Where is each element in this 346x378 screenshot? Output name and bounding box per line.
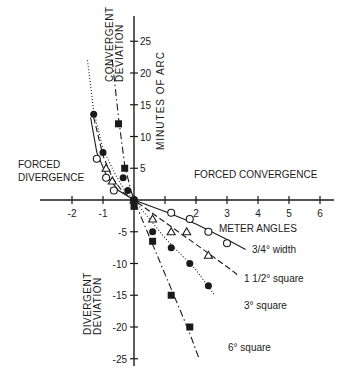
- data-point: [186, 260, 193, 267]
- data-point: [120, 174, 127, 181]
- divergent-deviation-label-2: DEVIATION: [92, 277, 103, 335]
- forced-convergence-label: FORCED CONVERGENCE: [194, 169, 318, 180]
- y-tick-label: 10: [140, 132, 152, 143]
- data-point: [168, 209, 175, 216]
- deviation-chart: -2-123456 252015105-5-10-15-20-25 CONVER…: [0, 0, 346, 378]
- x-tick-label: -2: [68, 208, 77, 219]
- series-line: [94, 118, 240, 277]
- y-tick-label: -25: [113, 354, 128, 365]
- data-point: [186, 216, 193, 223]
- data-point: [149, 238, 156, 245]
- legend-3-4-width: 3/4° width: [252, 244, 296, 255]
- data-point: [168, 292, 175, 299]
- legend-3-square: 3° square: [244, 300, 287, 311]
- legend-6-square: 6° square: [228, 342, 271, 353]
- data-point: [100, 149, 107, 156]
- data-point: [168, 244, 175, 251]
- y-tick-label: 25: [140, 36, 152, 47]
- meter-angles-label: METER ANGLES: [219, 223, 297, 234]
- data-point: [149, 228, 156, 235]
- x-tick-label: 3: [224, 208, 230, 219]
- y-tick-label: -10: [113, 259, 128, 270]
- series-curves: [88, 60, 246, 359]
- x-tick-label: -1: [99, 208, 108, 219]
- data-point: [183, 228, 191, 235]
- data-point: [103, 174, 110, 181]
- data-point: [90, 111, 97, 118]
- x-tick-label: 4: [255, 208, 261, 219]
- data-point: [121, 165, 128, 172]
- data-point: [205, 282, 212, 289]
- y-tick-label: 15: [140, 100, 152, 111]
- forced-divergence-label: FORCED: [18, 159, 60, 170]
- y-tick-label: 20: [140, 68, 152, 79]
- y-tick-label: -20: [113, 322, 128, 333]
- data-point: [186, 324, 193, 331]
- x-tick-label: 2: [193, 208, 199, 219]
- data-point: [93, 155, 100, 162]
- data-point: [110, 187, 117, 194]
- data-point: [205, 228, 212, 235]
- data-point: [124, 187, 131, 194]
- x-tick-label: 5: [286, 208, 292, 219]
- legend-1-5-square: 1 1/2° square: [244, 273, 304, 284]
- y-tick-label: -15: [113, 290, 128, 301]
- y-tick-label: 5: [140, 163, 146, 174]
- y-tick-label: -5: [118, 227, 127, 238]
- data-point: [115, 120, 122, 127]
- x-tick-label: 6: [317, 208, 323, 219]
- minutes-of-arc-label: MINUTES OF ARC: [155, 51, 166, 150]
- data-point: [131, 197, 138, 204]
- data-point: [131, 203, 138, 210]
- forced-divergence-label-2: DIVERGENCE: [18, 172, 84, 183]
- data-point: [224, 240, 231, 247]
- convergent-deviation-label-2: DEVIATION: [114, 24, 125, 82]
